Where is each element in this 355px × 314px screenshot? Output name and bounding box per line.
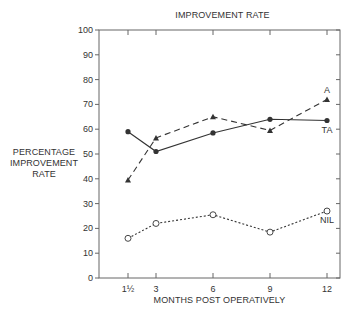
x-tick-label: 12 — [322, 284, 332, 294]
y-tick-label: 100 — [78, 25, 93, 35]
y-tick-label: 40 — [83, 174, 93, 184]
data-point — [210, 114, 216, 120]
x-tick-label: 3 — [153, 284, 158, 294]
chart-container: IMPROVEMENT RATE PERCENTAGE IMPROVEMENT … — [0, 0, 355, 314]
series-label-ta: TA — [322, 125, 333, 135]
data-point — [324, 208, 330, 214]
y-tick-label: 20 — [83, 223, 93, 233]
data-point — [153, 220, 159, 226]
plot-frame — [99, 30, 340, 278]
x-tick-label: 1½ — [122, 284, 135, 294]
plot-area: 01020304050607080901001½36912TAANIL — [0, 0, 355, 314]
y-tick-label: 50 — [83, 149, 93, 159]
x-tick-label: 6 — [210, 284, 215, 294]
y-tick-label: 70 — [83, 99, 93, 109]
series-label-a: A — [324, 85, 330, 95]
data-point — [267, 117, 272, 122]
data-point — [267, 127, 273, 133]
y-tick-label: 10 — [83, 248, 93, 258]
data-point — [324, 96, 330, 102]
y-tick-label: 60 — [83, 124, 93, 134]
data-point — [210, 212, 216, 218]
y-tick-label: 80 — [83, 75, 93, 85]
data-point — [125, 129, 130, 134]
data-point — [153, 149, 158, 154]
y-tick-label: 90 — [83, 50, 93, 60]
x-tick-label: 9 — [267, 284, 272, 294]
data-point — [324, 118, 329, 123]
data-point — [125, 235, 131, 241]
series-line-ta — [128, 119, 327, 151]
data-point — [267, 229, 273, 235]
y-tick-label: 30 — [83, 199, 93, 209]
y-tick-label: 0 — [88, 273, 93, 283]
series-label-nil: NIL — [320, 215, 334, 225]
data-point — [210, 130, 215, 135]
